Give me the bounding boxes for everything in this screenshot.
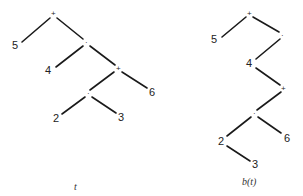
node-plus: + xyxy=(281,84,286,93)
tree-diagram: + 5 · 4 + · 6 2 3 t + 5 · 4 + · 2 6 3 b(… xyxy=(0,0,303,196)
node-times: · xyxy=(281,31,284,40)
edge xyxy=(256,39,280,59)
node-times: · xyxy=(253,109,256,118)
node-leaf-4: 4 xyxy=(45,64,51,76)
node-leaf-2: 2 xyxy=(218,135,224,147)
edge xyxy=(227,146,250,161)
node-plus: + xyxy=(51,9,56,18)
edge xyxy=(253,17,279,32)
node-leaf-3: 3 xyxy=(252,158,258,170)
edge xyxy=(258,117,281,133)
edge xyxy=(22,18,50,42)
edge xyxy=(57,18,83,39)
tree-t-edges xyxy=(22,18,147,114)
node-leaf-6: 6 xyxy=(149,86,155,98)
tree-bt-edges xyxy=(222,17,281,161)
node-times: · xyxy=(87,89,90,98)
tree-bt-nodes: + 5 · 4 + · 2 6 3 xyxy=(211,9,290,170)
tree-t-nodes: + 5 · 4 + · 6 2 3 xyxy=(12,9,155,124)
edge xyxy=(90,46,115,65)
node-leaf-5: 5 xyxy=(211,33,217,45)
edge xyxy=(90,72,114,90)
node-times: · xyxy=(85,38,88,47)
node-leaf-5: 5 xyxy=(12,39,18,51)
edge xyxy=(257,92,281,110)
node-leaf-3: 3 xyxy=(118,111,124,123)
edge xyxy=(92,97,116,113)
caption-t: t xyxy=(74,181,77,192)
node-plus: + xyxy=(116,64,121,73)
edge xyxy=(62,97,85,114)
edge xyxy=(227,117,251,136)
edge xyxy=(222,17,246,37)
edge xyxy=(256,68,280,85)
node-leaf-2: 2 xyxy=(53,112,59,124)
edge xyxy=(122,72,147,88)
node-plus: + xyxy=(247,9,252,18)
caption-bt: b(t) xyxy=(242,176,257,188)
edge xyxy=(56,46,83,67)
node-leaf-6: 6 xyxy=(284,132,290,144)
node-leaf-4: 4 xyxy=(246,57,252,69)
